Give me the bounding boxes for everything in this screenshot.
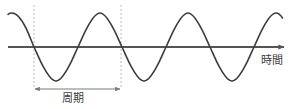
waveform-period-diagram: 時間 周期 [0,0,298,109]
time-axis-label: 時間 [261,54,283,67]
waveform-canvas [0,0,298,109]
period-label: 周期 [62,92,84,105]
